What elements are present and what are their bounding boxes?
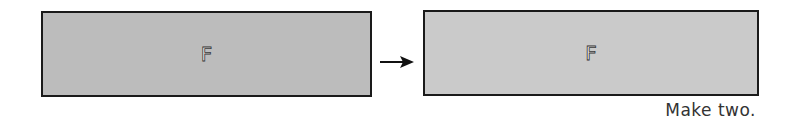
left-box-label: F	[201, 42, 213, 66]
right-box: F	[423, 10, 759, 96]
left-box: F	[41, 11, 372, 97]
caption: Make two.	[665, 100, 756, 120]
arrow-right-icon	[380, 55, 414, 69]
right-box-label: F	[585, 41, 597, 65]
